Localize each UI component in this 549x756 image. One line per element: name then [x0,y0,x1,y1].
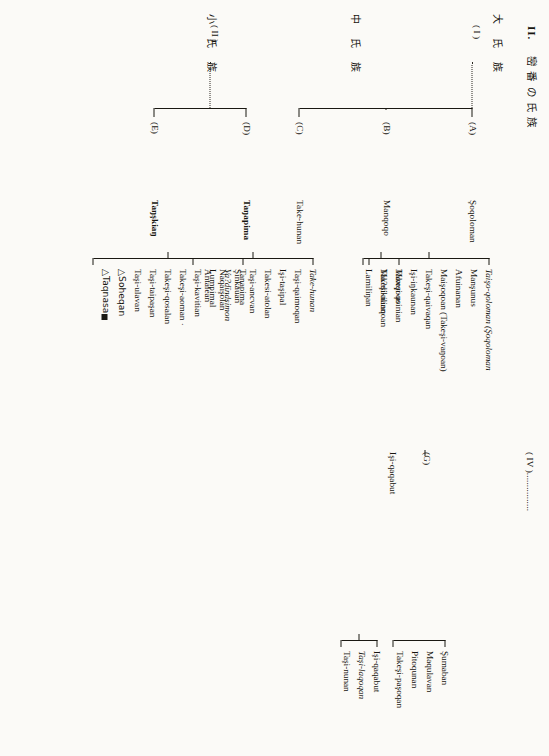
filled-square-marker-icon [101,314,107,320]
small-clan-Gl-2: Taşi-nunan [341,651,351,692]
connector-tick-D [245,108,246,117]
small-clan-A-2: Afuinanan [453,269,463,308]
small-clan-A-1: Manşunus [468,269,478,307]
connector-tick-G [424,450,425,456]
group-A-bracket-nub [428,252,429,259]
connector-tick-B [385,108,386,110]
small-clan-DE-8: △Soheqan [116,269,127,316]
group-B-bracket-bottom [362,258,363,265]
small-clan-B-1: Ma?dikilian [378,269,388,313]
column-header-large-clan: 大 氏 族 [490,14,505,78]
group-B-bracket-top [398,258,399,265]
group-Gl-bracket-top [376,640,377,647]
middle-clan-code-G: (G) [421,452,431,465]
middle-clan-code-E: (E) [149,122,159,134]
middle-clan-code-A: (A) [467,122,477,135]
middle-clan-name-A: Şoqoloman [467,200,477,243]
figure-number: II. [525,26,537,40]
small-clan-Gu-3: Takeşi-paşoqan [394,651,404,708]
connector-tick-A [471,108,472,117]
middle-clan-name-B: Manqoqo [381,200,391,236]
small-clan-A-5: Işi-iŋkaunan [408,269,418,315]
small-clan-B-0: Manqoqo [393,269,403,304]
small-clan-B-2: Lamiliŋan [363,269,373,307]
root-IV-leader: ................ [524,473,534,511]
small-clan-C-2: Işi-taşipal [277,269,287,305]
root-IV-text: ( IV ) [524,452,534,473]
small-clan-DE-9: △Taqnasa [100,269,111,320]
small-clan-DE-4: Takeşi-aoman · [177,269,187,326]
middle-clan-name-D: Taŋapima [241,200,251,240]
small-clan-DE-0: Tanapima [237,269,247,305]
root-label-II: ( II ) [209,25,219,42]
group-Gl-bracket-nub [358,634,359,641]
page-root: II. 巒 番 の 氏 族 大 氏 族 中 氏 族 小 氏 族 ( I ) (A… [0,0,549,756]
root-II-connector-vertical [154,108,246,109]
rotated-figure-canvas: II. 巒 番 の 氏 族 大 氏 族 中 氏 族 小 氏 族 ( I ) (A… [0,0,549,756]
small-clan-DE-9-text: △Taqnasa [100,269,111,314]
group-Gu-bracket-spine [393,640,445,641]
group-C-bracket-nub [252,252,253,259]
connector-tick-C [298,108,299,117]
column-header-middle-clan: 中 氏 族 [348,14,363,78]
group-Gu-bracket-top [444,640,445,647]
root-label-I: ( I ) [471,25,481,39]
small-clan-C-0: Take-hunan [307,269,317,312]
group-DE-bracket-top [242,258,243,265]
small-clan-DE-7: Taşi-ulavan [132,269,142,312]
small-clan-Gu-2: Pitoqunan [409,651,419,688]
group-A-bracket-bottom [368,258,369,265]
group-Gl-bracket-bottom [340,640,341,647]
small-clan-A-4: Takeşi-qaivaqan [423,269,433,329]
group-DE-bracket-bottom [92,258,93,265]
small-clan-C-1: Taşi-qaimoqan [292,269,302,323]
small-clan-DE-6: Taşi-taipaşan [147,269,157,317]
group-Gu-bracket-bottom [392,640,393,647]
small-clan-A-0: Taişo-qoloman (Şoqoloman [483,269,493,371]
figure-title-cjk: 巒 番 の 氏 族 [525,56,537,128]
small-clan-C-4: Taşi-ancvan [247,269,257,313]
small-clan-Gl-0: Işi-qaqabut [371,651,381,692]
small-clan-DE-1: Va?dïndsimon [222,269,232,321]
middle-clan-name-E: Taŋşkiaŋ [149,200,159,237]
small-clan-DE-3: Taşi-kavitian [192,269,202,317]
small-clan-A-3: Maişoqoan (Takeşi-vaŋoan) [438,269,448,372]
group-DE-bracket-nub [167,252,168,259]
clan-genealogy-figure: II. 巒 番 の 氏 族 大 氏 族 中 氏 族 小 氏 族 ( I ) (A… [0,0,549,756]
root-I-dotted-leader [471,62,472,108]
middle-clan-name-C: Take-hunan [294,200,304,244]
small-clan-C-3: Takesi-atolan [262,269,272,318]
root-label-IV: ( IV )................ [524,452,534,511]
group-A-bracket-top [488,258,489,265]
middle-clan-code-B: (B) [381,122,391,135]
small-clan-DE-2: Lumpimal [207,269,217,307]
middle-clan-name-G: Işi-qaqabut [387,452,397,494]
column-header-small-clan: 小 氏 族 [204,14,219,78]
connector-tick-E [153,108,154,117]
small-clan-Gu-0: Şumaban [439,651,449,685]
small-clan-Gl-1: Taşi-laqoqan [356,651,366,699]
small-clan-Gu-1: Maqulavan [424,651,434,692]
group-C-bracket-bottom [192,258,193,265]
middle-clan-code-D: (D) [241,122,251,135]
figure-title: II. 巒 番 の 氏 族 [524,26,539,128]
group-B-bracket-nub [380,252,381,259]
small-clan-DE-5: Takeşi-qosalan [162,269,172,324]
group-C-bracket-top [312,258,313,265]
root-II-dotted-leader [209,62,210,108]
middle-clan-code-C: (C) [294,122,304,135]
